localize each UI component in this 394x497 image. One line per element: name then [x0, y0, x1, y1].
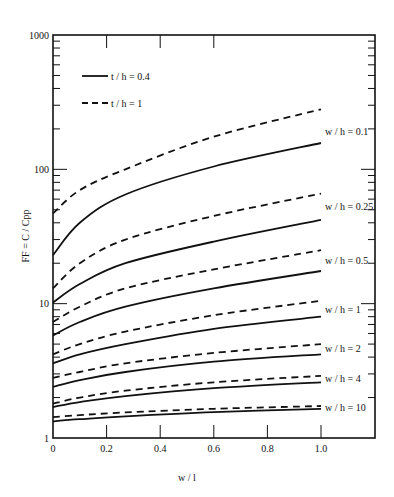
plot-curves	[53, 109, 321, 421]
curve-label: w / h = 0.25	[325, 201, 373, 212]
curve-dashed	[53, 250, 321, 322]
curve-solid	[53, 271, 321, 335]
curve-label: w / h = 10	[325, 402, 366, 413]
legend: t / h = 0.4t / h = 1	[82, 71, 150, 109]
curve-label: w / h = 0.5	[325, 255, 368, 266]
y-tick-label: 1000	[29, 30, 49, 41]
x-tick-label: 0.8	[261, 443, 274, 454]
curve-solid	[53, 220, 321, 303]
curve-label: w / h = 2	[325, 343, 361, 354]
x-axis-ticks: 00.20.40.60.81.0	[51, 35, 328, 454]
curve-dashed	[53, 194, 321, 289]
curve-label: w / h = 1	[325, 304, 361, 315]
x-tick-label: 0	[51, 443, 56, 454]
x-tick-label: 0.2	[100, 443, 113, 454]
x-tick-label: 0.6	[208, 443, 221, 454]
y-tick-label: 100	[34, 164, 49, 175]
x-axis-title: w / l	[178, 472, 196, 483]
chart: 1101001000 00.20.40.60.81.0 w / h = 0.1w…	[0, 0, 394, 497]
legend-label: t / h = 1	[111, 98, 142, 109]
curve-solid	[53, 143, 321, 255]
y-axis-ticks: 1101001000	[29, 30, 375, 444]
curve-dashed	[53, 344, 321, 378]
y-tick-label: 1	[44, 433, 49, 444]
x-tick-label: 1.0	[315, 443, 328, 454]
curve-label: w / h = 4	[325, 373, 361, 384]
curve-dashed	[53, 109, 321, 213]
curve-dashed	[53, 406, 321, 417]
y-axis-title: FF = C / Cpp	[20, 210, 31, 263]
legend-label: t / h = 0.4	[111, 71, 150, 82]
curve-label: w / h = 0.1	[325, 126, 368, 137]
x-tick-label: 0.4	[154, 443, 167, 454]
y-tick-label: 10	[39, 298, 49, 309]
curve-dashed	[53, 301, 321, 355]
curve-solid	[53, 354, 321, 387]
